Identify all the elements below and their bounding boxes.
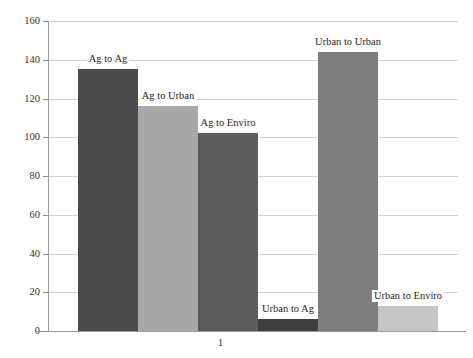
bar-ag-to-enviro[interactable] [198, 133, 258, 331]
y-tick-label: 40 [30, 249, 41, 259]
y-axis-line [48, 21, 49, 331]
bar-chart: 020406080100120140160 Ag to AgAg to Urba… [0, 0, 473, 358]
y-tick-label: 160 [24, 16, 40, 26]
bar-ag-to-urban[interactable] [138, 106, 198, 331]
y-tick-label: 100 [24, 132, 40, 142]
bar-label-ag-to-ag: Ag to Ag [87, 53, 130, 65]
plot-area [48, 21, 458, 331]
x-axis-line [36, 331, 466, 332]
bar-label-urban-to-enviro: Urban to Enviro [372, 290, 444, 302]
bar-urban-to-urban[interactable] [318, 52, 378, 331]
gridline-160 [48, 21, 458, 22]
bar-ag-to-ag[interactable] [78, 69, 138, 331]
bar-urban-to-ag[interactable] [258, 319, 318, 331]
bar-label-ag-to-urban: Ag to Urban [140, 90, 197, 102]
bar-label-urban-to-urban: Urban to Urban [313, 36, 383, 48]
tick-mark-100 [43, 137, 48, 138]
tick-mark-140 [43, 60, 48, 61]
y-tick-label: 120 [24, 94, 40, 104]
bar-label-ag-to-enviro: Ag to Enviro [199, 117, 258, 129]
tick-mark-80 [43, 176, 48, 177]
tick-mark-60 [43, 215, 48, 216]
bar-urban-to-enviro[interactable] [378, 306, 438, 331]
tick-mark-0 [43, 331, 48, 332]
y-tick-label: 60 [30, 210, 41, 220]
y-tick-label: 80 [30, 171, 41, 181]
bar-label-urban-to-ag: Urban to Ag [260, 303, 316, 315]
tick-mark-20 [43, 292, 48, 293]
y-tick-label: 140 [24, 55, 40, 65]
tick-mark-40 [43, 254, 48, 255]
tick-mark-160 [43, 21, 48, 22]
y-axis-tick-labels: 020406080100120140160 [0, 0, 40, 358]
x-axis-category-label: 1 [218, 337, 223, 348]
y-tick-label: 20 [30, 287, 41, 297]
tick-mark-120 [43, 99, 48, 100]
